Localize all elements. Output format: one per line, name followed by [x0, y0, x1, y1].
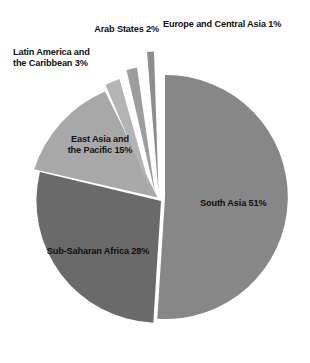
pie-label-arab-states: Arab States 2% [63, 24, 159, 35]
pie-chart: Europe and Central Asia 1% Arab States 2… [0, 0, 310, 363]
pie-label-sub-saharan-africa: Sub-Saharan Africa 28% [36, 246, 160, 257]
pie-slice-south-asia [157, 75, 288, 319]
pie-label-europe-central-asia: Europe and Central Asia 1% [163, 19, 281, 30]
pie-slice-europe-central-asia [147, 51, 159, 192]
pie-label-east-asia-pacific: East Asia and the Pacific 15% [48, 134, 152, 157]
pie-label-latin-america-caribbean: Latin America and the Caribbean 3% [13, 47, 116, 70]
pie-label-south-asia: South Asia 51% [200, 198, 266, 209]
